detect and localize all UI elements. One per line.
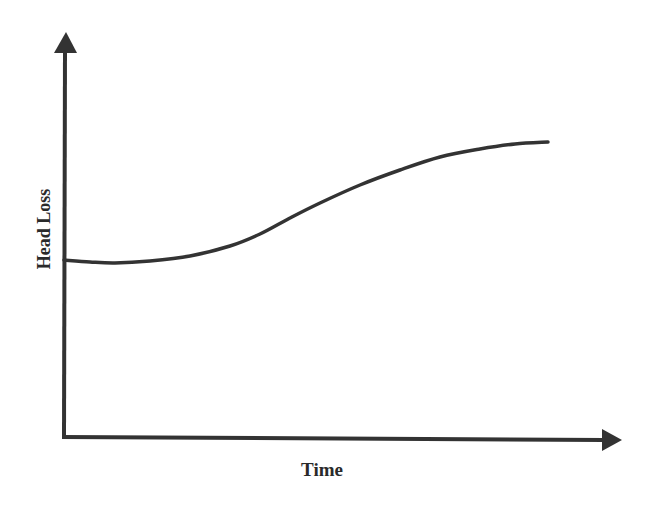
y-axis-arrow-icon (54, 32, 77, 53)
x-axis-arrow-icon (602, 429, 622, 451)
y-axis (64, 50, 65, 438)
head-loss-diagram: Time Head Loss (0, 0, 653, 507)
y-axis-label: Head Loss (34, 189, 54, 270)
x-axis-label: Time (301, 459, 343, 480)
x-axis (62, 437, 604, 440)
head-loss-curve (64, 142, 548, 263)
